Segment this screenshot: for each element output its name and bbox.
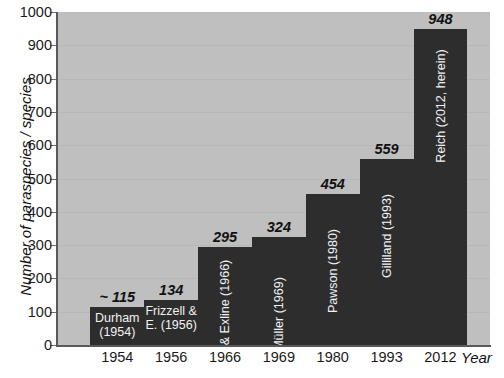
bar: Gilliland (1993) [360, 159, 414, 345]
bar-inner-label: Frizzell & Exline (1966) [198, 247, 252, 345]
bar-inner-label-text: Müller (1969) [272, 277, 286, 345]
x-tick-label: 1956 [155, 349, 187, 365]
x-tick-labels-group: 1954195619661969198019932012 [0, 349, 504, 371]
x-axis-title: Year [461, 349, 492, 366]
bar-value-label: 559 [374, 141, 398, 157]
x-tick-label: 1966 [209, 349, 241, 365]
bar: Müller (1969) [252, 237, 306, 345]
bar-inner-label-line: Durham [91, 311, 143, 325]
bar-value-label: 948 [428, 11, 452, 27]
x-tick-label: 1980 [317, 349, 349, 365]
bar-inner-label: Müller (1969) [252, 237, 306, 345]
bar-value-label: 324 [267, 219, 291, 235]
bar-inner-label-text: Frizzell & Exline (1966) [218, 260, 232, 345]
bar-inner-label-line: Frizzell & [145, 304, 197, 318]
bar-value-label: 454 [321, 176, 345, 192]
bar-chart-figure: Durham(1954)Frizzell &E. (1956)Frizzell … [0, 0, 504, 378]
x-tick-label: 1993 [370, 349, 402, 365]
bar-inner-label: Durham(1954) [90, 311, 144, 339]
y-axis-title: Number of paraspecies / species [17, 22, 34, 352]
y-tick-label: 1000 [4, 5, 52, 20]
bar: Frizzell & Exline (1966) [198, 247, 252, 345]
x-tick-label: 1969 [263, 349, 295, 365]
x-axis-line [56, 345, 491, 347]
bar-inner-label: Pawson (1980) [306, 194, 360, 345]
bar: Durham(1954) [90, 307, 144, 345]
bar: Pawson (1980) [306, 194, 360, 345]
x-tick-label: 1954 [101, 349, 133, 365]
bar: Frizzell &E. (1956) [144, 300, 198, 345]
bar-inner-label-line: E. (1956) [145, 318, 197, 332]
bar-value-label: 134 [159, 282, 183, 298]
caption-fragment [60, 371, 500, 378]
bar-inner-label: Reich (2012, herein) [414, 29, 468, 345]
bar-inner-label: Gilliland (1993) [360, 159, 414, 345]
bar-inner-label-text: Gilliland (1993) [380, 194, 394, 278]
bar-value-label: 295 [213, 229, 237, 245]
x-tick-label: 2012 [424, 349, 456, 365]
bar-value-label: ~ 115 [100, 289, 136, 305]
bar: Reich (2012, herein) [414, 29, 468, 345]
bar-inner-label-text: Reich (2012, herein) [433, 50, 447, 163]
bar-inner-label: Frizzell &E. (1956) [144, 304, 198, 332]
bar-inner-label-text: Pawson (1980) [326, 229, 340, 313]
y-axis-line [56, 12, 58, 346]
bar-inner-label-line: (1954) [91, 325, 143, 339]
